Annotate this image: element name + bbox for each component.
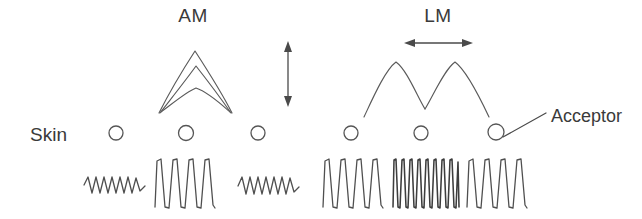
acceptor-callout: Acceptor [503, 106, 622, 137]
acceptor-circle [109, 126, 123, 140]
lm-arrow-head-right [462, 39, 473, 47]
lm-arrow-head-left [404, 39, 415, 47]
lm-envelope-curves [364, 62, 489, 117]
am-waveform-small-left [84, 177, 145, 193]
am-title-label: AM [178, 5, 208, 26]
skin-label: Skin [30, 124, 67, 145]
diagram-canvas: AM Skin [0, 0, 642, 219]
am-arrow-head-down [284, 96, 292, 107]
acceptor-circle [179, 126, 194, 141]
am-envelope-curves [159, 51, 232, 113]
lm-waveform-left [323, 159, 383, 208]
am-arrow-head-up [284, 41, 292, 52]
lm-group: LM Acceptor [323, 5, 622, 208]
lm-waveform-dense-center [393, 159, 459, 208]
lm-envelope-left-peak [364, 62, 425, 117]
acceptor-circle [251, 126, 265, 140]
acceptor-circle-highlighted [488, 124, 504, 140]
lm-location-arrow [404, 39, 473, 47]
am-waveform-small-right [238, 177, 299, 194]
am-group: AM Skin [30, 5, 299, 208]
lm-title-label: LM [424, 5, 452, 26]
acceptor-circle [344, 126, 358, 140]
am-waveforms [84, 159, 299, 208]
acceptor-label: Acceptor [551, 106, 622, 126]
acceptor-leader-line [503, 113, 546, 137]
lm-waveforms [323, 159, 527, 208]
acceptor-circle [414, 126, 428, 140]
lm-acceptor-circles [344, 124, 504, 140]
am-acceptor-circles [109, 126, 265, 141]
lm-envelope-right-peak [425, 62, 489, 117]
am-lm-diagram: AM Skin [0, 0, 642, 219]
am-amplitude-arrow [284, 41, 292, 107]
am-waveform-large-center [155, 159, 215, 208]
lm-waveform-right [467, 159, 527, 208]
am-envelope-middle [160, 66, 231, 113]
